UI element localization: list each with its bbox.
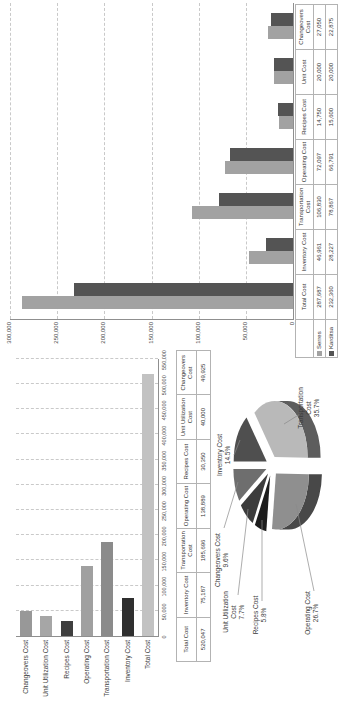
bar-serres-unit-cost: [274, 71, 293, 84]
value-cell-serres-operating-cost: 72,097: [314, 140, 326, 185]
value-gridline: [16, 408, 158, 409]
value-cell-karditsa-total-cost: 232,360: [326, 275, 338, 320]
value-cell-serres-changeovers-cost: 27,050: [314, 5, 326, 50]
pie-label-changeovers-cost-pct: 9.6%: [222, 552, 229, 567]
value-gridline: [199, 3, 200, 319]
bar-recipes-cost: [61, 621, 73, 636]
legend-label-serres: Serres: [316, 331, 322, 349]
value-gridline: [16, 434, 158, 435]
bar-chart-plot-area: [16, 359, 159, 637]
bar-serres-changeovers-cost: [268, 26, 294, 39]
pie-label-operating-cost-pct: 26.7%: [312, 604, 319, 623]
y-axis-tick-label: 50,000: [242, 322, 248, 358]
value-cell-karditsa-transportation-cost: 78,867: [326, 185, 338, 230]
table-header-row: Total CostInventory CostTransportation C…: [296, 5, 314, 358]
bar-total-cost: [142, 374, 154, 636]
total-costs-bar-chart: Total CostInventory CostTransportation C…: [0, 344, 215, 716]
bar-karditsa-operating-cost: [230, 148, 293, 161]
pie-label-transportation-cost: Cost: [305, 401, 312, 415]
y-axis-tick-label: 250,000: [53, 322, 59, 358]
pie-label-transportation-cost-pct: 35.7%: [313, 399, 320, 418]
header-cell-changeovers-cost: Changeovers Cost: [296, 5, 314, 50]
header-cell-inventory-cost: Inventory Cost: [296, 230, 314, 275]
value-gridline: [16, 383, 158, 384]
value-cell-serres-unit-cost: 20,000: [314, 50, 326, 95]
bar-karditsa-unit-cost: [274, 58, 293, 71]
bar-serres-inventory-cost: [249, 251, 293, 264]
pie-label-transportation-cost: Transportation: [297, 387, 305, 429]
bar-karditsa-transportation-cost: [219, 193, 293, 206]
header-cell-operating-cost: Operating Cost: [296, 140, 314, 185]
bar-changeovers-cost: [20, 611, 32, 636]
value-cell-karditsa-changeovers-cost: 22,875: [326, 5, 338, 50]
header-cell-transportation-cost: Transportation Cost: [296, 185, 314, 230]
category-label-unit-utilization-cost: Unit Utilization Cost: [42, 640, 49, 716]
pie-label-inventory-cost: Inventory Cost: [216, 434, 224, 476]
value-cell-serres-recipes-cost: 14,750: [314, 95, 326, 140]
comparison-chart-plot-area: [10, 3, 294, 320]
value-gridline: [16, 459, 158, 460]
header-cell-total-cost: Total Cost: [177, 617, 197, 661]
comparison-chart-data-table: Total CostInventory CostTransportation C…: [295, 4, 338, 358]
header-cell-recipes-cost: Recipes Cost: [177, 439, 197, 483]
category-label-operating-cost: Operating Cost: [83, 640, 90, 716]
value-cell-serres-transportation-cost: 106,830: [314, 185, 326, 230]
pie-label-changeovers-cost: Changeovers Cost: [214, 533, 222, 587]
value-cell-karditsa-operating-cost: 66,791: [326, 140, 338, 185]
bar-serres-transportation-cost: [192, 206, 293, 219]
pie-label-recipes-cost: Recipes Cost: [252, 595, 260, 634]
y-axis-tick-label: 150,000: [148, 322, 154, 358]
bar-operating-cost: [81, 566, 93, 636]
header-cell-operating-cost: Operating Cost: [177, 484, 197, 528]
value-cell-karditsa-unit-cost: 20,000: [326, 50, 338, 95]
value-gridline: [16, 534, 158, 535]
pie-label-unit-utilization-cost: Cost: [230, 605, 237, 619]
value-gridline: [10, 3, 11, 319]
value-cell-karditsa-recipes-cost: 15,600: [326, 95, 338, 140]
bar-karditsa-inventory-cost: [266, 238, 293, 251]
y-axis-tick-label: 0: [289, 322, 295, 358]
pie-leader-line-changeovers-cost: [224, 482, 238, 528]
legend-cell-karditsa: Karditsa: [326, 320, 338, 358]
corner-cell: [296, 320, 314, 358]
scenario-comparison-chart: Total CostInventory CostTransportation C…: [0, 0, 337, 360]
series-row-serres: Serres287,68746,961106,83072,09714,75020…: [314, 5, 326, 358]
header-cell-recipes-cost: Recipes Cost: [296, 95, 314, 140]
pie-label-unit-utilization-cost-pct: 7.7%: [238, 604, 245, 619]
header-cell-total-cost: Total Cost: [296, 275, 314, 320]
category-label-transportation-cost: Transportation Cost: [103, 640, 110, 716]
category-label-recipes-cost: Recipes Cost: [63, 640, 70, 716]
header-cell-transportation-cost: Transportation Cost: [177, 528, 197, 572]
value-cell-serres-inventory-cost: 46,961: [314, 230, 326, 275]
legend-key-karditsa: [329, 351, 334, 356]
header-cell-unit-cost: Unit Cost: [296, 50, 314, 95]
pie-label-recipes-cost-pct: 5.8%: [260, 607, 267, 622]
cost-breakdown-pie-chart: Inventory Cost14.5%TransportationCost35.…: [196, 351, 337, 661]
category-label-inventory-cost: Inventory Cost: [124, 640, 131, 716]
y-axis-tick-label: 300,000: [6, 322, 12, 358]
pie-leader-line-unit-utilization-cost: [238, 509, 248, 595]
legend-key-serres: [317, 351, 322, 356]
value-gridline: [104, 3, 105, 319]
value-gridline: [16, 509, 158, 510]
y-axis-tick-label: 100,000: [195, 322, 201, 358]
series-row-karditsa: Karditsa232,36028,22778,86766,79115,6002…: [326, 5, 338, 358]
value-gridline: [16, 484, 158, 485]
y-axis-tick-label: 200,000: [100, 322, 106, 358]
bar-unit-utilization-cost: [40, 616, 52, 636]
bar-transportation-cost: [101, 543, 113, 637]
header-cell-inventory-cost: Inventory Cost: [177, 573, 197, 617]
bar-serres-operating-cost: [225, 161, 293, 174]
legend-label-karditsa: Karditsa: [328, 327, 334, 349]
value-gridline: [57, 3, 58, 319]
value-cell-karditsa-inventory-cost: 28,227: [326, 230, 338, 275]
category-label-total-cost: Total Cost: [144, 640, 151, 716]
table-header-row: Total CostInventory CostTransportation C…: [177, 351, 197, 662]
pie-label-operating-cost: Operating Cost: [304, 591, 312, 635]
pie-label-inventory-cost-pct: 14.5%: [224, 446, 231, 465]
bar-inventory-cost: [122, 598, 134, 636]
legend-cell-serres: Serres: [314, 320, 326, 358]
bar-serres-recipes-cost: [279, 116, 293, 129]
value-gridline: [152, 3, 153, 319]
